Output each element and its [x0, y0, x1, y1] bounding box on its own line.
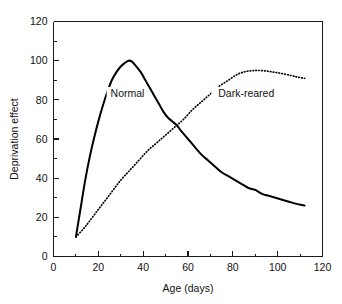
deprivation-effect-line-chart: 020406080100120 020406080100120 NormalDa…: [0, 0, 342, 304]
y-tick-label: 80: [36, 94, 48, 106]
chart-background: [0, 0, 342, 304]
x-tick-label: 40: [137, 261, 149, 273]
annotation-label: Dark-reared: [218, 87, 274, 99]
y-axis-title: Deprivation effect: [8, 98, 20, 180]
x-tick-label: 20: [92, 261, 104, 273]
y-tick-label: 60: [36, 133, 48, 145]
y-tick-label: 20: [36, 211, 48, 223]
y-tick-label: 100: [30, 54, 48, 66]
x-tick-label: 100: [269, 261, 287, 273]
x-tick-label: 0: [51, 261, 57, 273]
x-tick-label: 120: [314, 261, 332, 273]
y-tick-label: 0: [42, 250, 48, 262]
x-tick-label: 80: [227, 261, 239, 273]
annotation-label: Normal: [111, 87, 145, 99]
x-axis-title: Age (days): [163, 282, 214, 294]
chart-figure: 020406080100120 020406080100120 NormalDa…: [0, 0, 342, 304]
x-tick-label: 60: [182, 261, 194, 273]
y-tick-label: 40: [36, 172, 48, 184]
y-tick-label: 120: [30, 15, 48, 27]
